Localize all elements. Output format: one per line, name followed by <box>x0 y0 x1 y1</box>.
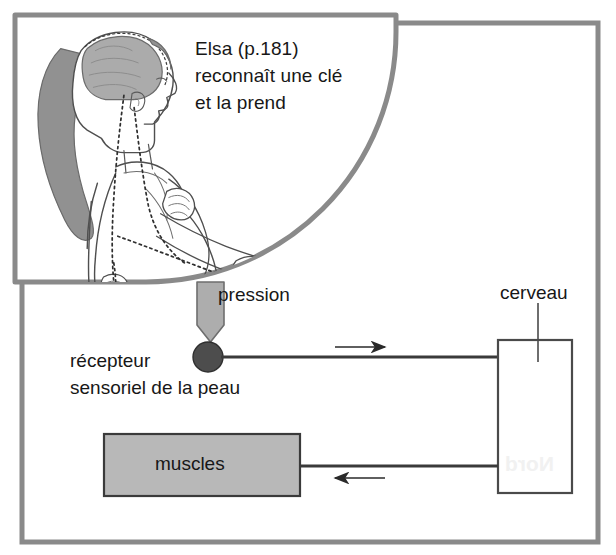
brain-box <box>498 303 572 493</box>
illustration-caption: Elsa (p.181) reconnaît une clé et la pre… <box>195 36 342 117</box>
muscles-label: muscles <box>155 452 225 476</box>
figure-root: Elsa (p.181) reconnaît une clé et la pre… <box>0 0 616 555</box>
receptor-label: récepteur sensoriel de la peau <box>70 348 240 402</box>
afferent-connection <box>221 347 498 357</box>
efferent-connection <box>300 466 498 478</box>
brain-label: cerveau <box>500 281 568 305</box>
pressure-label: pression <box>218 283 290 307</box>
